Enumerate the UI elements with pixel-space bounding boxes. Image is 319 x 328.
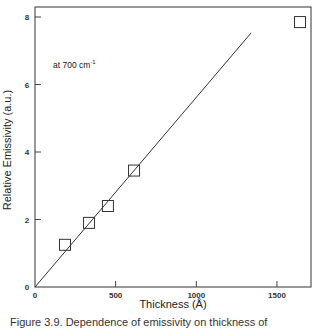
y-axis-label: Relative Emissivity (a.u.) bbox=[1, 90, 13, 210]
emissivity-chart: 05001000150002468 at 700 cm-1 Thickness … bbox=[0, 0, 319, 328]
data-series bbox=[35, 17, 306, 287]
axis-ticks: 05001000150002468 bbox=[25, 13, 287, 300]
y-tick-label: 8 bbox=[25, 13, 30, 22]
x-tick-label: 0 bbox=[33, 291, 38, 300]
x-tick-label: 500 bbox=[109, 291, 123, 300]
y-tick-label: 0 bbox=[25, 283, 30, 292]
plot-frame bbox=[35, 7, 311, 287]
plot-border bbox=[35, 7, 311, 287]
data-point-square bbox=[295, 17, 306, 28]
y-tick-label: 6 bbox=[25, 81, 30, 90]
y-tick-label: 4 bbox=[25, 148, 30, 157]
x-axis-label: Thickness (Å) bbox=[139, 298, 206, 310]
data-point-square bbox=[60, 239, 71, 250]
annotation-wavenumber: at 700 cm-1 bbox=[53, 59, 96, 70]
x-tick-label: 1500 bbox=[268, 291, 286, 300]
y-tick-label: 2 bbox=[25, 216, 30, 225]
fit-line bbox=[35, 33, 251, 287]
figure-caption: Figure 3.9. Dependence of emissivity on … bbox=[10, 316, 268, 328]
